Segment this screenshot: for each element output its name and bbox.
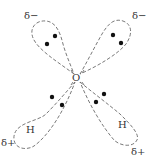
diagram-svg: δ− δ− O H H δ+ δ+ [0,0,154,157]
electron-dot [102,92,106,96]
lobe-bottom-right [80,82,138,145]
center-atom-label: O [72,72,80,83]
charge-label-top-right: δ− [132,10,146,21]
lobe-bottom-left [14,82,75,148]
electron-dot [94,100,98,104]
electron-dot [50,95,54,99]
electron-dot [53,34,57,38]
lobe-top-left [32,21,74,74]
charge-label-bottom-right: δ+ [131,146,145,157]
water-molecule-diagram: δ− δ− O H H δ+ δ+ [0,0,154,157]
electron-dot [60,103,64,107]
charge-label-bottom-left: δ+ [1,137,15,148]
electron-dot [45,42,49,46]
electron-dot [111,33,115,37]
atom-label-bottom-right: H [118,119,127,130]
charge-label-top-left: δ− [24,10,38,21]
atom-label-bottom-left: H [26,124,35,135]
electron-dot [119,41,123,45]
lobe-top-right [80,20,131,74]
